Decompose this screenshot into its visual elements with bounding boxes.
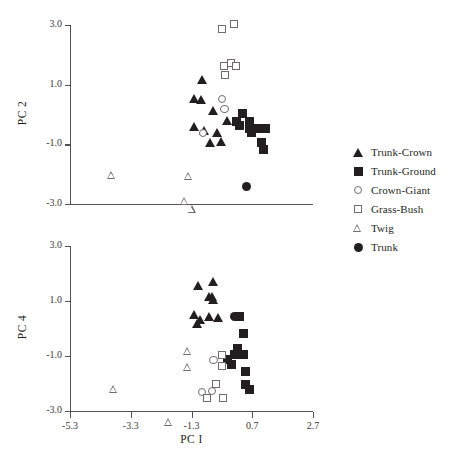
legend-item-label: Trunk [371,241,398,253]
legend: Trunk-CrownTrunk-GroundCrown-GiantGrass-… [352,145,452,255]
filled-square-marker [245,385,254,394]
filled-triangle-marker [213,313,223,322]
filled-triangle-marker [208,277,218,286]
y-tick-label: -1.0 [28,349,62,360]
legend-item-twig: Twig [352,221,394,235]
x-tick-mark [313,412,314,418]
legend-item-trunk-ground: Trunk-Ground [352,164,436,178]
legend-glyph-wrapper [352,184,364,196]
filled-triangle-marker [353,148,363,157]
filled-circle-marker [354,243,363,252]
open-triangle-marker [183,363,191,371]
legend-glyph-wrapper [352,222,364,234]
legend-item-label: Twig [371,222,394,234]
open-square-marker [218,351,226,359]
y-axis-title-bottom: PC 4 [16,297,28,357]
legend-item-label: Trunk-Ground [371,165,436,177]
y-tick-label: 3.0 [28,239,62,250]
x-tick-label: 0.7 [230,420,274,431]
x-tick-label: -3.3 [109,420,153,431]
legend-item-grass-bush: Grass-Bush [352,202,423,216]
legend-glyph-wrapper [352,146,364,158]
legend-glyph-wrapper [352,241,364,253]
filled-square-marker [239,350,248,359]
filled-triangle-marker [208,295,218,304]
legend-item-trunk: Trunk [352,240,398,254]
filled-triangle-marker [193,281,203,290]
x-tick-mark [192,412,193,418]
open-circle-marker [209,356,218,365]
open-square-marker [354,205,362,213]
x-tick-mark [131,412,132,418]
y-tick-label: -3.0 [28,404,62,415]
y-tick-mark [65,356,70,357]
scatter-plot-figure: 3.01.0-1.0-3.0PC 23.01.0-1.0-3.0-5.3-3.3… [0,0,452,468]
filled-square-marker [354,167,363,176]
open-square-marker [219,394,227,402]
x-tick-label: 2.7 [291,420,335,431]
x-tick-mark [70,412,71,418]
x-axis-title: PC I [152,433,232,445]
x-tick-mark [252,412,253,418]
open-triangle-marker [353,224,361,232]
open-square-marker [218,362,226,370]
open-triangle-marker [164,418,172,426]
legend-item-label: Trunk-Crown [371,146,432,158]
y-tick-mark [65,301,70,302]
legend-glyph-wrapper [352,203,364,215]
open-square-marker [212,380,220,388]
open-triangle-marker [109,385,117,393]
legend-item-trunk-crown: Trunk-Crown [352,145,432,159]
x-tick-label: -1.3 [170,420,214,431]
y-tick-label: 1.0 [28,294,62,305]
filled-square-marker [239,329,248,338]
y-axis-line-bottom [70,246,71,412]
open-square-marker [203,394,211,402]
legend-glyph-wrapper [352,165,364,177]
x-tick-label: -5.3 [48,420,92,431]
legend-item-label: Crown-Giant [371,184,430,196]
filled-triangle-marker [192,319,202,328]
y-tick-mark [65,246,70,247]
filled-square-marker [241,367,250,376]
legend-item-crown-giant: Crown-Giant [352,183,430,197]
open-circle-marker [354,186,363,195]
open-triangle-marker [183,347,191,355]
legend-item-label: Grass-Bush [371,203,423,215]
filled-square-marker [227,360,236,369]
